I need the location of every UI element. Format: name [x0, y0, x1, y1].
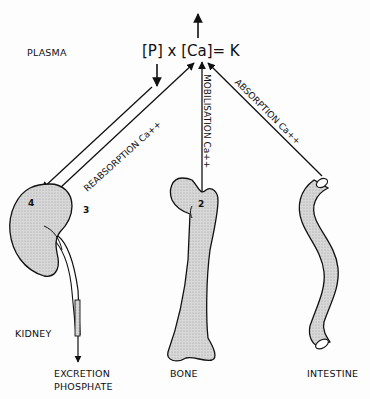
- bone-illustration: [168, 178, 218, 361]
- mobilisation-label: MOBILISATION Ca++: [202, 74, 212, 168]
- phosphate-label: PHOSPHATE: [54, 381, 113, 392]
- kidney-marker-3: 3: [83, 205, 89, 215]
- excretion-label: EXCRETION: [54, 368, 110, 379]
- plasma-label: PLASMA: [27, 47, 67, 58]
- kidney-marker-4: 4: [28, 198, 34, 208]
- kidney-label: KIDNEY: [15, 328, 51, 339]
- equilibrium-equation: [P] x [Ca]= K: [142, 42, 240, 60]
- absorption-arrow: [208, 63, 322, 176]
- calcium-phosphate-diagram: PLASMA [P] x [Ca]= K REABSORPTION Ca++ M…: [0, 0, 370, 399]
- reabsorption-arrow: [60, 63, 194, 188]
- intestine-label: INTESTINE: [307, 368, 358, 379]
- intestine-illustration: [299, 177, 338, 351]
- bone-marker-2: 2: [198, 199, 204, 209]
- bone-label: BONE: [170, 368, 198, 379]
